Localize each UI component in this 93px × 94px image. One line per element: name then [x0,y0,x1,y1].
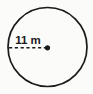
circle-radius-diagram: 11 m [0,0,93,94]
center-point-dot [45,45,50,50]
diagram-canvas: 11 m [0,0,93,94]
radius-measurement-label: 11 m [15,34,41,46]
